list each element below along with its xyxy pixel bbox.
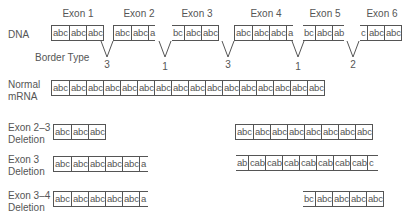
exon-3-title: Exon 3 <box>172 8 222 19</box>
codon-cell: abc <box>52 26 69 40</box>
codon-cell: abc <box>366 192 383 206</box>
codon-cell: abc <box>256 81 273 95</box>
splice-junction-icon <box>221 40 235 60</box>
codon-cell: abc <box>355 125 372 139</box>
codon-cell: abc <box>235 26 252 40</box>
codon-cell: cab <box>248 156 265 170</box>
codon-cell: abc <box>103 81 120 95</box>
codon-cell: abc <box>71 157 88 171</box>
codon-cell: abc <box>236 125 253 139</box>
codon-cell: abc <box>154 81 171 95</box>
border-type-value: 2 <box>346 59 360 70</box>
codon-cell: cab <box>350 156 367 170</box>
codon-cell: abc <box>137 81 154 95</box>
exon-3-deletion-right: ab cab cab cab cab cab cab cab c <box>236 155 378 171</box>
codon-cell: abc <box>88 125 105 139</box>
codon-cell: abc <box>114 26 131 40</box>
codon-cell: abc <box>205 81 222 95</box>
codon-cell: abc <box>88 192 105 206</box>
codon-cell: bc <box>303 192 315 206</box>
splice-junction-icon <box>100 40 114 60</box>
splice-junction-icon <box>158 40 172 60</box>
exon-1-title: Exon 1 <box>52 8 104 19</box>
splice-junction-icon <box>291 40 305 60</box>
exon-1-segment: abc abc abc <box>51 25 104 41</box>
codon-cell: abc <box>71 192 88 206</box>
border-type-value: 1 <box>158 61 172 72</box>
exon-6-segment: c abc abc <box>360 25 402 41</box>
codon-cell: abc <box>349 192 366 206</box>
codon-cell: abc <box>290 81 307 95</box>
codon-cell: abc <box>184 26 201 40</box>
exon-2-3-deletion-left: abc abc abc <box>53 124 106 140</box>
codon-cell: abc <box>222 81 239 95</box>
dna-label: DNA <box>8 29 29 41</box>
exon-3-segment: bc abc abc <box>172 25 219 41</box>
exon-3-4-deletion-left: abc abc abc abc abc a <box>53 191 148 207</box>
codon-cell: abc <box>131 26 148 40</box>
codon-cell: abc <box>120 81 137 95</box>
codon-cell: cab <box>265 156 282 170</box>
codon-cell: bc <box>303 26 315 40</box>
codon-cell: abc <box>86 81 103 95</box>
border-type-label: Border Type <box>35 52 89 64</box>
codon-cell: abc <box>321 125 338 139</box>
exon-6-title: Exon 6 <box>360 8 404 19</box>
codon-cell: abc <box>269 26 286 40</box>
exon-3-deletion-left: abc abc abc abc abc a <box>53 156 148 172</box>
codon-cell: abc <box>69 26 86 40</box>
codon-cell: abc <box>86 26 103 40</box>
exon-4-title: Exon 4 <box>235 8 297 19</box>
codon-cell: abc <box>304 125 321 139</box>
codon-cell: a <box>139 192 148 206</box>
exon-5-title: Exon 5 <box>302 8 348 19</box>
codon-cell: abc <box>71 125 88 139</box>
codon-cell: abc <box>69 81 86 95</box>
codon-cell: abc <box>105 192 122 206</box>
codon-cell: abc <box>54 157 71 171</box>
codon-cell: abc <box>367 26 384 40</box>
codon-cell: abc <box>253 125 270 139</box>
codon-cell: abc <box>52 81 69 95</box>
codon-cell: abc <box>273 81 290 95</box>
codon-cell: cab <box>299 156 316 170</box>
exon-4-segment: abc abc abc a <box>234 25 293 41</box>
splice-junction-icon <box>346 40 360 60</box>
codon-cell: c <box>367 156 378 170</box>
border-type-value: 3 <box>100 59 114 70</box>
normal-mrna-label: Normal mRNA <box>8 79 40 103</box>
exon-2-title: Exon 2 <box>113 8 165 19</box>
exon-3-4-deletion-right: bc abc abc abc abc <box>303 191 384 207</box>
exon-2-segment: abc abc a <box>113 25 155 41</box>
codon-cell: abc <box>201 26 218 40</box>
codon-cell: abc <box>122 157 139 171</box>
codon-cell: abc <box>239 81 256 95</box>
codon-cell: ab <box>236 156 248 170</box>
codon-cell: a <box>148 26 155 40</box>
codon-cell: cab <box>282 156 299 170</box>
codon-cell: abc <box>122 192 139 206</box>
codon-cell: cab <box>316 156 333 170</box>
codon-cell: a <box>286 26 293 40</box>
codon-cell: abc <box>188 81 205 95</box>
codon-cell: abc <box>54 125 71 139</box>
codon-cell: abc <box>88 157 105 171</box>
exon-5-segment: bc abc ab <box>303 25 344 41</box>
codon-cell: abc <box>307 81 324 95</box>
codon-cell: ab <box>332 26 344 40</box>
codon-cell: abc <box>252 26 269 40</box>
codon-cell: abc <box>54 192 71 206</box>
normal-mrna-sequence: abc abc abc abc abc abc abc abc abc abc … <box>51 80 325 96</box>
codon-cell: abc <box>315 192 332 206</box>
codon-cell: abc <box>171 81 188 95</box>
border-type-value: 1 <box>291 61 305 72</box>
codon-cell: bc <box>172 26 184 40</box>
exon-3-4-deletion-label: Exon 3–4 Deletion <box>8 190 50 214</box>
codon-cell: abc <box>384 26 401 40</box>
codon-cell: a <box>139 157 148 171</box>
codon-cell: cab <box>333 156 350 170</box>
codon-cell: abc <box>315 26 332 40</box>
border-type-value: 3 <box>221 59 235 70</box>
codon-cell: c <box>360 26 367 40</box>
codon-cell: abc <box>287 125 304 139</box>
